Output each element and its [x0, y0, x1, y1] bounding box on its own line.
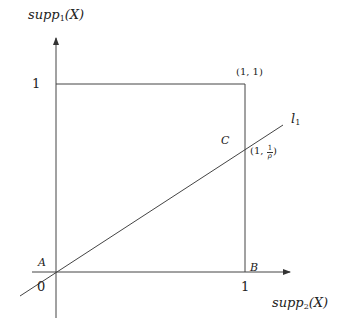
x-tick-label: 1 — [241, 280, 249, 293]
y-tick-label: 1 — [32, 77, 40, 90]
point-b-label: B — [250, 262, 258, 273]
corner-label: (1, 1) — [236, 67, 263, 77]
x-axis-label: supp2(X) — [272, 296, 328, 311]
intersection-label: (1, 1ρ) — [250, 145, 277, 160]
origin-label: 0 — [37, 280, 45, 293]
intersection-suffix: ) — [273, 145, 277, 156]
x-axis-label-rest: (X) — [309, 295, 328, 310]
point-c-label: C — [221, 135, 229, 146]
y-axis-label-rest: (X) — [65, 7, 84, 22]
line-l1-label: l1 — [291, 112, 300, 127]
x-axis-label-base: supp — [272, 295, 304, 310]
point-a-label: A — [38, 257, 46, 268]
intersection-prefix: (1, — [250, 145, 267, 156]
y-axis-label-base: supp — [28, 7, 60, 22]
line-l1 — [20, 125, 283, 296]
diagram-canvas — [0, 0, 343, 333]
line-label-sub: 1 — [295, 118, 300, 127]
y-axis-label: supp1(X) — [28, 8, 84, 23]
